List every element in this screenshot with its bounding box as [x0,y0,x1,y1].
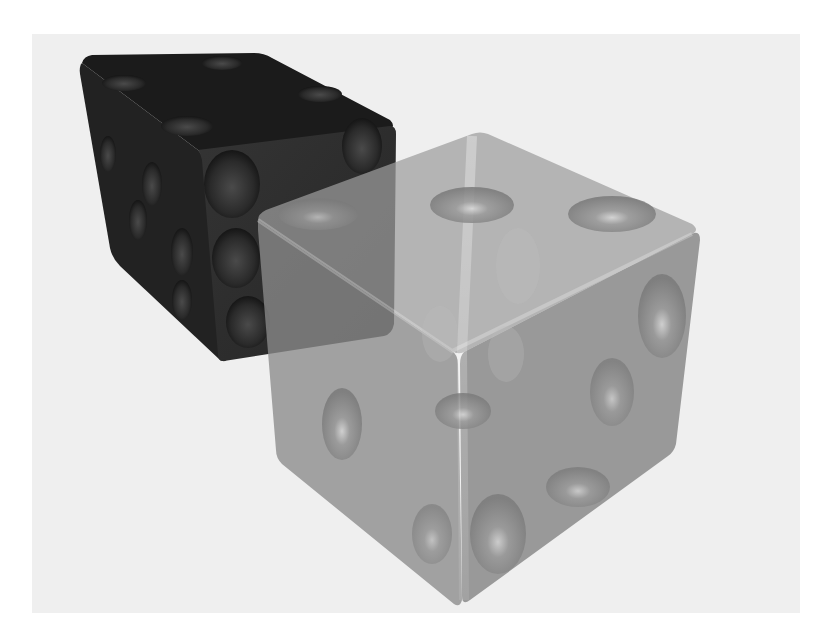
render-frame [32,34,800,613]
translucent-die [258,133,700,606]
dice-scene [32,34,800,613]
